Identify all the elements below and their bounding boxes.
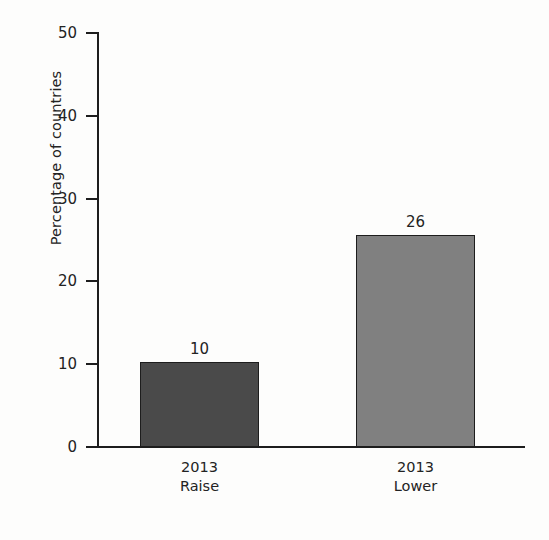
x-category-line2-1: Raise xyxy=(140,477,259,496)
bar-value-label-2: 26 xyxy=(406,213,425,231)
y-tick-label-50: 50 xyxy=(58,24,77,42)
y-axis-title: Percentage of countries xyxy=(48,18,64,298)
y-tick-label-0: 0 xyxy=(67,438,77,456)
y-tick-20: 20 xyxy=(86,280,98,282)
y-tick-30: 30 xyxy=(86,198,98,200)
x-category-label-1: 2013Raise xyxy=(140,458,259,497)
x-category-label-2: 2013Lower xyxy=(356,458,475,497)
x-category-line1-1: 2013 xyxy=(181,459,218,475)
bar-chart: Percentage of countries 01020304050 1026… xyxy=(0,0,549,540)
x-category-line2-2: Lower xyxy=(356,477,475,496)
x-category-line1-2: 2013 xyxy=(397,459,434,475)
y-tick-label-40: 40 xyxy=(58,107,77,125)
bar-2: 26 xyxy=(356,235,475,447)
y-tick-0: 0 xyxy=(86,446,98,448)
bar-1: 10 xyxy=(140,362,259,447)
y-tick-label-30: 30 xyxy=(58,190,77,208)
y-axis-line xyxy=(97,32,99,448)
y-tick-50: 50 xyxy=(86,32,98,34)
y-tick-10: 10 xyxy=(86,363,98,365)
y-tick-label-10: 10 xyxy=(58,355,77,373)
y-tick-40: 40 xyxy=(86,115,98,117)
bar-value-label-1: 10 xyxy=(190,340,209,358)
y-tick-label-20: 20 xyxy=(58,272,77,290)
